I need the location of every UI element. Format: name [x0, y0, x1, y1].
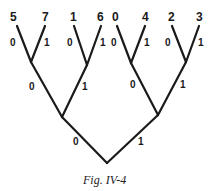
edge-bit-label: 1	[138, 136, 144, 147]
edge-root-left	[62, 117, 107, 163]
edge-leaf-3	[87, 26, 101, 65]
leaf-label: 7	[42, 10, 49, 24]
leaf-label: 4	[142, 10, 149, 24]
edge-bit-label: 1	[44, 37, 50, 48]
edge-leaf-2	[74, 26, 87, 65]
edge-bit-label: 0	[29, 81, 35, 92]
figure-caption: Fig. IV-4	[82, 173, 126, 187]
edge-leaf-4	[117, 26, 131, 63]
edge-leaf-1	[31, 26, 45, 62]
edge-bit-label: 0	[67, 37, 73, 48]
leaf-label: 0	[112, 10, 119, 24]
edge-bit-label: 0	[165, 37, 171, 48]
leaf-label: 1	[70, 10, 77, 24]
edge-bit-label: 0	[73, 136, 79, 147]
leaf-label: 3	[196, 10, 203, 24]
edge-bit-label: 0	[111, 37, 117, 48]
edge-bit-label: 1	[82, 81, 88, 92]
leaf-label: 6	[97, 10, 104, 24]
edge-bit-label: 1	[180, 79, 186, 90]
edge-bit-label: 1	[144, 37, 150, 48]
edge-root-right	[107, 115, 158, 163]
edge-bit-label: 0	[10, 37, 16, 48]
binary-tree-diagram: 5 7 1 6 0 4 2 3 0 1 0 1 0 1 0 1 0 1 0 1 …	[0, 0, 213, 191]
edge-bit-label: 1	[198, 37, 204, 48]
edge-bit-label: 1	[100, 37, 106, 48]
leaf-label: 2	[168, 10, 175, 24]
edge-l1a-left	[31, 62, 62, 117]
edge-leaf-0	[17, 26, 31, 62]
edge-bit-label: 0	[130, 79, 136, 90]
edge-leaf-6	[172, 26, 186, 62]
leaf-label: 5	[10, 10, 17, 24]
edge-leaf-5	[131, 26, 145, 63]
